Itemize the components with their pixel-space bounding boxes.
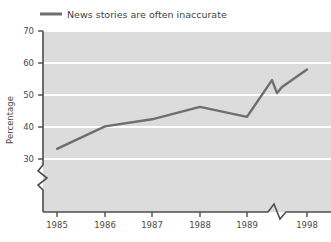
chart-legend: News stories are often inaccurate [40, 9, 227, 20]
x-tick-label-1987: 1987 [141, 220, 163, 230]
x-tick-label-1998: 1998 [296, 220, 318, 230]
x-tick-label-1988: 1988 [189, 220, 211, 230]
y-axis-title: Percentage [5, 96, 15, 144]
x-tick-label-1986: 1986 [94, 220, 116, 230]
y-tick-label-40: 40 [23, 122, 34, 132]
y-tick-label-50: 50 [23, 90, 34, 100]
chart-container: News stories are often inaccurate 70 60 … [0, 0, 331, 242]
line-chart: News stories are often inaccurate 70 60 … [0, 0, 331, 242]
plot-area-background [43, 31, 331, 212]
y-tick-label-30: 30 [23, 154, 34, 164]
y-tick-label-60: 60 [23, 58, 34, 68]
x-tick-label-1989: 1989 [236, 220, 258, 230]
x-tick-label-1985: 1985 [46, 220, 68, 230]
y-tick-label-70: 70 [23, 26, 34, 36]
legend-label: News stories are often inaccurate [67, 9, 227, 20]
